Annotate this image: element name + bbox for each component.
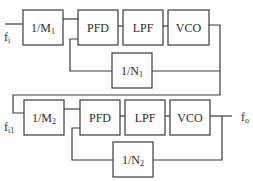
input-fi1-label: fi1 [4,120,14,135]
pfd1-label: PFD [87,21,109,35]
m2-divider-label: 1/M2 [32,111,56,126]
pfd2-label: PFD [89,111,111,125]
input-fi-label: fi [4,30,11,45]
output-fo-label: fo [241,110,249,125]
feedback2-left-wire [72,128,113,160]
vco2-label: VCO [177,111,203,125]
feedback1-left-wire [70,39,112,71]
n1-divider-label: 1/N1 [121,64,143,79]
lpf1-label: LPF [133,21,154,35]
vco1-label: VCO [176,21,202,35]
m1-divider-label: 1/M1 [31,21,55,36]
pll-diagram: fi 1/M1 PFD LPF VCO 1/N1 fi1 1/M2 PFD LP… [0,0,253,181]
n2-divider-label: 1/N2 [122,153,144,168]
lpf2-label: LPF [135,111,156,125]
